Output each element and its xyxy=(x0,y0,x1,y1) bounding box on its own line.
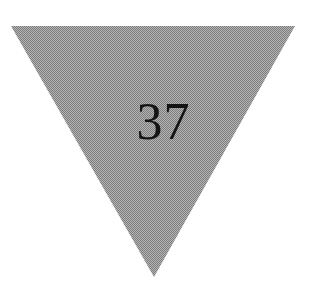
downward-triangle-shape xyxy=(11,26,295,277)
image-canvas: 37 xyxy=(0,0,311,299)
shape-canvas xyxy=(0,0,311,299)
